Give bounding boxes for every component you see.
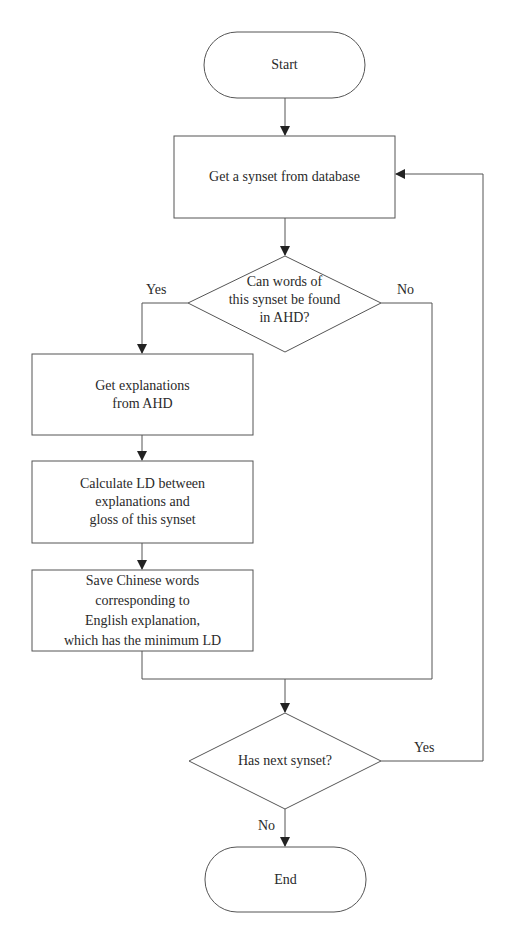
get-synset-box: Get a synset from database [174,136,395,218]
get-explanations-line1: Get explanations [95,377,189,395]
line-decision1-no [381,303,432,679]
decision1-line2: this synset be found [229,291,341,309]
save-words-line4: which has the minimum LD [64,631,221,651]
calculate-ld-box: Calculate LD between explanations and gl… [32,461,253,543]
save-words-box: Save Chinese words corresponding to Engl… [32,570,253,651]
arrow-decision1-yes [142,303,188,353]
decision1-line3: in AHD? [259,309,309,327]
decision2-yes-label: Yes [414,740,434,756]
start-label: Start [271,56,297,74]
save-words-line3: English explanation, [85,611,200,631]
decision2: Has next synset? [189,713,381,809]
decision2-label: Has next synset? [238,752,332,770]
save-words-line1: Save Chinese words [86,571,200,591]
decision1-yes-label: Yes [146,282,166,298]
calculate-ld-line3: gloss of this synset [89,511,195,529]
decision2-no-label: No [258,818,275,834]
decision1: Can words of this synset be found in AHD… [188,260,381,340]
end-terminal: End [205,847,366,912]
calculate-ld-line1: Calculate LD between [80,475,205,493]
decision1-line1: Can words of [247,273,322,291]
calculate-ld-line2: explanations and [95,493,189,511]
get-explanations-box: Get explanations from AHD [32,354,253,435]
get-synset-label: Get a synset from database [209,168,360,186]
end-label: End [274,871,297,889]
decision1-no-label: No [397,282,414,298]
get-explanations-line2: from AHD [112,395,172,413]
line-merge [142,651,432,679]
save-words-line2: corresponding to [95,591,189,611]
start-terminal: Start [204,32,365,98]
